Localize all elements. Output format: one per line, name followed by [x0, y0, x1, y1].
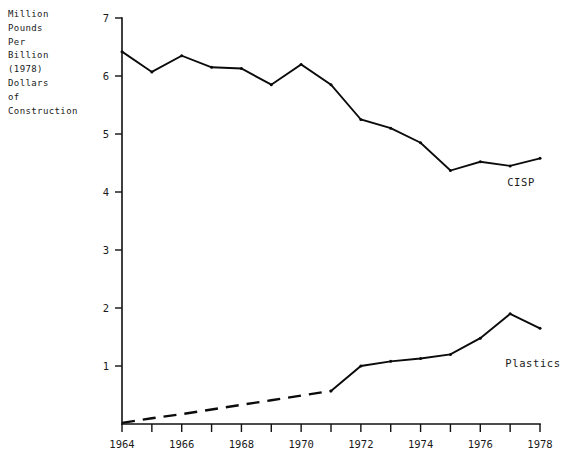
data-point: [509, 164, 512, 167]
y-axis-tick-label: 7: [103, 12, 109, 24]
data-point: [479, 337, 482, 340]
chart-container: Million Pounds Per Billion (1978) Dollar…: [0, 0, 575, 460]
data-point: [449, 169, 452, 172]
y-axis-tick-label: 3: [103, 244, 109, 256]
data-point: [300, 63, 303, 66]
data-point: [509, 312, 512, 315]
data-point: [419, 141, 422, 144]
series-label-cisp: CISP: [507, 176, 535, 188]
data-point: [389, 360, 392, 363]
data-point: [479, 160, 482, 163]
data-point: [210, 66, 213, 69]
y-axis-tick-label: 5: [103, 128, 109, 140]
y-axis-tick-label: 4: [103, 186, 109, 198]
series-line-plastics-dashed: [122, 391, 331, 423]
data-series-group: [121, 50, 542, 423]
data-point: [389, 127, 392, 130]
series-label-plastics: Plastics: [505, 357, 560, 369]
y-axis-tick-label: 6: [103, 70, 109, 82]
x-axis-tick-label: 1970: [288, 438, 313, 450]
x-axis-tick-label: 1972: [348, 438, 373, 450]
data-point: [359, 118, 362, 121]
x-axis-tick-label: 1978: [527, 438, 552, 450]
x-axis-tick-label: 1966: [169, 438, 194, 450]
data-point: [330, 389, 333, 392]
data-point: [121, 50, 124, 53]
y-axis: 1234567: [103, 12, 122, 424]
x-axis: 19641966196819701972197419761978: [109, 424, 552, 450]
y-axis-tick-label: 2: [103, 302, 109, 314]
data-point: [539, 327, 542, 330]
data-point: [270, 83, 273, 86]
data-point: [330, 83, 333, 86]
data-point: [180, 54, 183, 57]
x-axis-tick-label: 1968: [229, 438, 254, 450]
chart-plot-area: 1234567 19641966196819701972197419761978…: [0, 0, 575, 460]
data-point: [359, 365, 362, 368]
series-line-plastics: [331, 314, 540, 391]
y-axis-tick-label: 1: [103, 360, 109, 372]
x-axis-tick-label: 1974: [408, 438, 433, 450]
series-label-group: CISPPlastics: [505, 176, 560, 369]
data-point: [150, 70, 153, 73]
data-point: [449, 353, 452, 356]
data-point: [240, 67, 243, 70]
x-axis-tick-label: 1976: [468, 438, 493, 450]
data-point: [419, 357, 422, 360]
x-axis-tick-label: 1964: [109, 438, 134, 450]
series-line-cisp: [122, 52, 540, 171]
data-point: [539, 157, 542, 160]
